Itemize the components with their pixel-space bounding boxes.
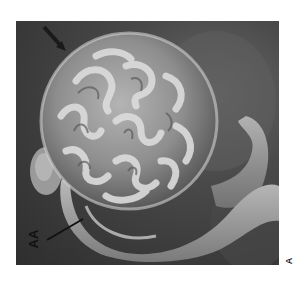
panel-label-a: A [283,255,295,267]
micrograph-image [16,21,279,265]
label-aa: AA [27,227,41,251]
micrograph-panel [16,21,279,265]
